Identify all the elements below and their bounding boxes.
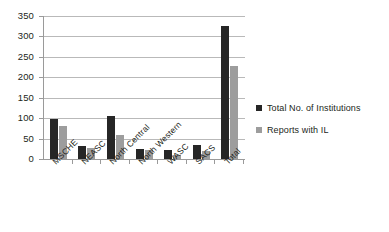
y-tick-label: 50 (23, 134, 34, 144)
y-tick-mark (39, 77, 43, 78)
y-tick-label: 350 (18, 11, 34, 21)
y-tick-mark (39, 57, 43, 58)
y-tick-mark (39, 36, 43, 37)
legend-item: Reports with IL (256, 122, 389, 137)
y-tick-mark (39, 139, 43, 140)
y-tick-mark (39, 98, 43, 99)
bar (221, 26, 229, 159)
y-tick-label: 200 (18, 72, 34, 82)
bar (230, 66, 238, 159)
chart-legend: Total No. of InstitutionsReports with IL (256, 100, 389, 144)
y-axis-tick-labels: 050100150200250300350 (0, 0, 38, 232)
y-tick-label: 100 (18, 113, 34, 123)
legend-item: Total No. of Institutions (256, 100, 389, 115)
legend-swatch-icon (256, 127, 262, 133)
y-tick-label: 0 (29, 154, 34, 164)
bar-chart: 050100150200250300350 MSCHENEASCNorth Ce… (0, 0, 389, 232)
x-axis-category-labels: MSCHENEASCNorth CentralNorth WesternWASC… (43, 160, 253, 232)
y-tick-label: 150 (18, 93, 34, 103)
bars-layer (44, 16, 245, 159)
y-tick-label: 300 (18, 31, 34, 41)
y-tick-label: 250 (18, 52, 34, 62)
legend-label: Total No. of Institutions (267, 103, 361, 113)
y-tick-mark (39, 118, 43, 119)
legend-label: Reports with IL (267, 125, 329, 135)
legend-swatch-icon (256, 105, 262, 111)
y-tick-mark (39, 16, 43, 17)
